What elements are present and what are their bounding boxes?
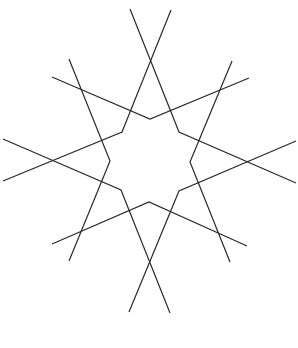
star-line-f (52, 202, 247, 246)
star-line-c (69, 59, 110, 261)
star-line-b (3, 10, 171, 181)
star-line-h (129, 141, 296, 312)
star-line-g (3, 139, 170, 313)
star-figure (0, 0, 298, 348)
star-line-e (52, 77, 249, 119)
star-line-d (190, 61, 232, 262)
star-lines (3, 9, 296, 313)
star-line-a (130, 9, 296, 183)
